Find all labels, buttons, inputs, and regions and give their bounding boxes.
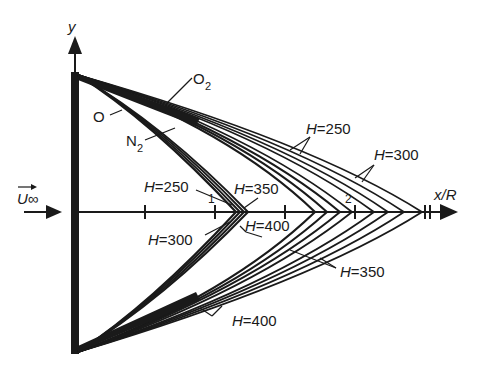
label-inner-h300: H=300 bbox=[148, 231, 193, 248]
x-tick-label-2: 2 bbox=[345, 192, 352, 206]
label-outer-h300: H=300 bbox=[374, 146, 419, 163]
freestream-label: U∞ bbox=[17, 190, 39, 207]
lower-dense-band bbox=[78, 292, 200, 352]
label-o: O bbox=[93, 108, 105, 125]
outer-shock-group bbox=[78, 75, 422, 352]
x-axis-arrowhead-icon bbox=[440, 204, 458, 220]
freestream-arrowhead-icon bbox=[46, 205, 62, 219]
label-outer-h350: H=350 bbox=[340, 263, 385, 280]
label-n2-subscript: 2 bbox=[137, 142, 143, 154]
label-o2-subscript: 2 bbox=[205, 80, 211, 92]
y-axis-arrowhead-icon bbox=[68, 36, 82, 54]
diagram-canvas: O 2 O N 2 y x/R 1 2 U∞ H=250 H=350 H=300… bbox=[0, 0, 477, 365]
x-axis-label: x/R bbox=[433, 186, 457, 203]
label-inner-h250: H=250 bbox=[144, 178, 189, 195]
label-n2: N bbox=[126, 132, 137, 149]
label-outer-h250: H=250 bbox=[306, 120, 351, 137]
label-inner-h400: H=400 bbox=[245, 217, 290, 234]
x-tick-label-1: 1 bbox=[208, 192, 215, 206]
flat-plate bbox=[71, 72, 79, 354]
label-o2: O bbox=[193, 70, 205, 87]
label-outer-h400: H=400 bbox=[232, 312, 277, 329]
label-inner-h350: H=350 bbox=[234, 180, 279, 197]
y-axis-label: y bbox=[67, 18, 77, 35]
